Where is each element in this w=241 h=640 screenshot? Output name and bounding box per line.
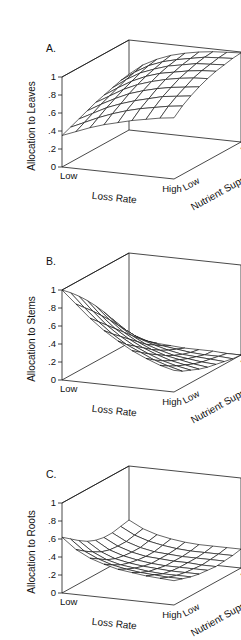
z-tick-label: 0	[51, 161, 56, 172]
x-axis-low-label: Low	[60, 170, 78, 181]
y-axis-low-label: Low	[181, 601, 202, 619]
x-axis-title: Loss Rate	[91, 403, 137, 419]
z-axis-ticks: 1.8.6.4.20	[48, 71, 62, 172]
z-tick-label: 1	[51, 497, 56, 508]
y-axis-low-label: Low	[181, 388, 202, 406]
z-axis-title: Allocation to Roots	[26, 510, 37, 593]
z-axis-ticks: 1.8.6.4.20	[48, 497, 62, 598]
x-axis-high-label: High	[162, 183, 182, 194]
panel-c-svg: 1.8.6.4.20LowHighLowHighAllocation to Ro…	[0, 426, 241, 640]
z-tick-label: .2	[48, 143, 56, 154]
y-axis-low-label: Low	[181, 175, 202, 193]
z-tick-label: .2	[48, 356, 56, 367]
box-top-back-edges	[62, 253, 241, 290]
panel-letter: A.	[46, 42, 56, 54]
z-tick-label: .4	[48, 338, 56, 349]
figure-panel-allocation-surfaces: 1.8.6.4.20LowHighLowHighAllocation to Le…	[0, 0, 241, 640]
z-tick-label: 1	[51, 284, 56, 295]
panel-b-allocation-to-stems: 1.8.6.4.20LowHighLowHighAllocation to St…	[0, 213, 241, 427]
panel-a-allocation-to-leaves: 1.8.6.4.20LowHighLowHighAllocation to Le…	[0, 0, 241, 214]
z-axis-title: Allocation to Stems	[26, 296, 37, 382]
z-tick-label: 0	[51, 374, 56, 385]
box-floor	[62, 130, 241, 179]
z-tick-label: .8	[48, 302, 56, 313]
z-tick-label: .6	[48, 107, 56, 118]
z-tick-label: 0	[51, 587, 56, 598]
z-tick-label: .8	[48, 515, 56, 526]
z-tick-label: .6	[48, 320, 56, 331]
box-top-left-edge	[62, 466, 129, 503]
z-tick-label: .4	[48, 125, 56, 136]
surface-mesh	[62, 290, 241, 371]
x-axis-title: Loss Rate	[91, 616, 137, 632]
z-tick-label: .6	[48, 533, 56, 544]
x-axis-title: Loss Rate	[91, 190, 137, 206]
x-axis-low-label: Low	[60, 596, 78, 607]
z-tick-label: .8	[48, 89, 56, 100]
panel-letter: C.	[46, 468, 57, 480]
z-tick-label: .2	[48, 569, 56, 580]
z-tick-label: .4	[48, 551, 56, 562]
panel-a-svg: 1.8.6.4.20LowHighLowHighAllocation to Le…	[0, 0, 241, 214]
panel-letter: B.	[46, 255, 56, 267]
x-axis-low-label: Low	[60, 383, 78, 394]
z-tick-label: 1	[51, 71, 56, 82]
z-axis-ticks: 1.8.6.4.20	[48, 284, 62, 385]
box-top-back-edges	[62, 466, 241, 503]
surface-mesh	[62, 52, 241, 136]
box-top-left-edge	[62, 253, 129, 290]
surface-mesh	[62, 520, 241, 581]
category-labels: LowHighLowHigh	[60, 137, 241, 194]
panel-c-allocation-to-roots: 1.8.6.4.20LowHighLowHighAllocation to Ro…	[0, 426, 241, 640]
box-top-left-edge	[62, 40, 129, 77]
axes-box	[62, 253, 241, 392]
x-axis-high-label: High	[162, 609, 182, 620]
panel-b-svg: 1.8.6.4.20LowHighLowHighAllocation to St…	[0, 213, 241, 427]
x-axis-high-label: High	[162, 396, 182, 407]
z-axis-title: Allocation to Leaves	[26, 81, 37, 171]
